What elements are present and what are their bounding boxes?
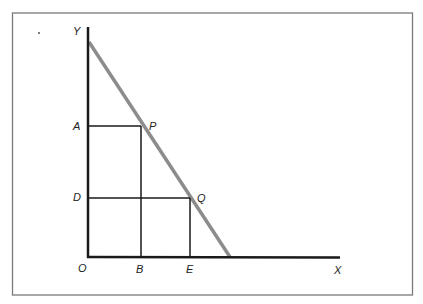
label-d: D [73, 191, 81, 203]
label-x: X [333, 264, 342, 276]
frame-border [13, 13, 413, 295]
label-y: Y [73, 25, 81, 37]
label-a: A [72, 120, 80, 132]
label-b: B [136, 263, 143, 275]
label-o: O [78, 262, 87, 274]
diagram: Y A P D Q O B E X [0, 0, 423, 304]
label-e: E [186, 263, 194, 275]
x-axis [87, 257, 340, 258]
stray-dot [38, 32, 40, 34]
label-q: Q [197, 192, 206, 204]
label-p: P [149, 120, 157, 132]
diagonal-line [89, 42, 230, 257]
